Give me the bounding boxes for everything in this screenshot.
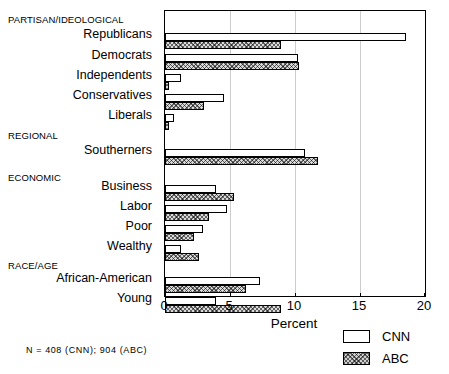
legend-label-abc: ABC <box>382 351 409 366</box>
legend-item-cnn: CNN <box>343 325 443 347</box>
x-axis-tick-labels: 0 5 10 15 20 <box>164 298 424 314</box>
x-tick-label-15: 15 <box>352 298 366 313</box>
bar-abc-liberals <box>165 122 169 130</box>
x-tick-15 <box>360 293 361 297</box>
bar-abc-independents <box>165 82 169 90</box>
bar-abc-poor <box>165 233 194 241</box>
bar-cnn-poor <box>165 225 203 233</box>
x-tick-10 <box>295 293 296 297</box>
x-tick-5 <box>230 293 231 297</box>
category-label-republicans: Republicans <box>83 27 152 41</box>
category-label-business: Business <box>101 179 152 193</box>
chart-legend: CNN ABC <box>343 325 443 369</box>
bar-cnn-business <box>165 185 216 193</box>
bar-cnn-labor <box>165 205 227 213</box>
chart-footnote: N = 408 (CNN); 904 (ABC) <box>26 345 147 355</box>
bar-abc-conservatives <box>165 102 204 110</box>
legend-label-cnn: CNN <box>382 329 410 344</box>
bar-abc-democrats <box>165 62 299 70</box>
bar-cnn-republicans <box>165 33 406 41</box>
bar-cnn-conservatives <box>165 94 224 102</box>
category-label-column: PARTISAN/IDEOLOGICAL Republicans Democra… <box>0 0 160 300</box>
category-label-young: Young <box>117 291 152 305</box>
bar-abc-african-american <box>165 285 246 293</box>
bar-cnn-democrats <box>165 54 298 62</box>
chart-container: PARTISAN/IDEOLOGICAL Republicans Democra… <box>0 0 449 374</box>
plot-area <box>164 10 426 297</box>
category-label-african-american: African-American <box>56 271 152 285</box>
bar-abc-labor <box>165 213 209 221</box>
group-header-partisan: PARTISAN/IDEOLOGICAL <box>8 14 124 25</box>
bar-abc-southerners <box>165 157 318 165</box>
bar-abc-wealthy <box>165 253 199 261</box>
category-label-southerners: Southerners <box>84 143 152 157</box>
x-tick-label-0: 0 <box>160 298 167 313</box>
bar-cnn-independents <box>165 74 181 82</box>
category-label-liberals: Liberals <box>108 108 152 122</box>
bar-abc-republicans <box>165 41 281 49</box>
bar-cnn-african-american <box>165 277 260 285</box>
bar-abc-business <box>165 193 234 201</box>
x-tick-20 <box>424 293 425 297</box>
category-label-conservatives: Conservatives <box>73 88 152 102</box>
x-tick-label-20: 20 <box>417 298 431 313</box>
category-label-democrats: Democrats <box>92 48 152 62</box>
category-label-poor: Poor <box>126 219 152 233</box>
group-header-regional: REGIONAL <box>8 130 58 141</box>
category-label-wealthy: Wealthy <box>107 239 152 253</box>
gridline-15 <box>360 11 361 296</box>
legend-swatch-abc-icon <box>343 352 370 365</box>
bar-cnn-southerners <box>165 149 305 157</box>
category-label-labor: Labor <box>120 199 152 213</box>
x-tick-label-5: 5 <box>225 298 232 313</box>
group-header-economic: ECONOMIC <box>8 172 61 183</box>
bar-cnn-liberals <box>165 114 174 122</box>
x-tick-label-10: 10 <box>287 298 301 313</box>
legend-swatch-cnn-icon <box>343 330 370 343</box>
legend-item-abc: ABC <box>343 347 443 369</box>
bar-cnn-wealthy <box>165 245 181 253</box>
group-header-raceage: RACE/AGE <box>8 260 58 271</box>
category-label-independents: Independents <box>76 68 152 82</box>
